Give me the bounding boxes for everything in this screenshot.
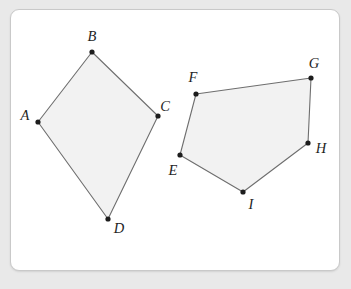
vertex-label-b: B xyxy=(88,28,97,44)
vertex-label-e: E xyxy=(168,162,178,178)
vertex-label-g: G xyxy=(309,55,320,71)
vertex-label-h: H xyxy=(315,140,328,156)
shapes-layer xyxy=(38,52,311,219)
geometry-figure: ABCDEFGHI xyxy=(0,0,351,289)
vertex-dot-c xyxy=(155,113,160,118)
quadrilateral-abcd xyxy=(38,52,158,219)
vertex-dot-e xyxy=(177,152,182,157)
vertex-dot-a xyxy=(35,119,40,124)
vertex-dot-d xyxy=(105,216,110,221)
vertex-dot-b xyxy=(89,49,94,54)
vertex-label-f: F xyxy=(188,69,198,85)
vertex-dot-g xyxy=(308,75,313,80)
vertex-dot-i xyxy=(240,189,245,194)
pentagon-efghi xyxy=(180,78,311,192)
vertex-dot-h xyxy=(305,140,310,145)
vertex-label-i: I xyxy=(248,196,255,212)
vertex-label-c: C xyxy=(160,98,170,114)
vertex-label-d: D xyxy=(113,220,125,236)
vertex-dot-f xyxy=(193,91,198,96)
vertex-label-a: A xyxy=(20,107,30,123)
